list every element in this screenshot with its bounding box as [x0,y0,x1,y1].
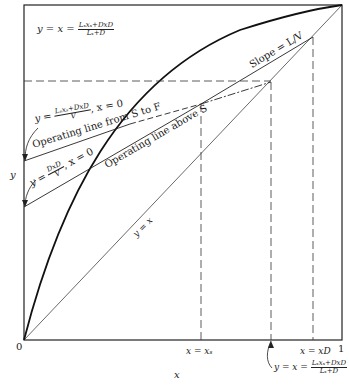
denominator: Lₛ+D [87,30,105,37]
origin-label: 0 [16,342,22,352]
fraction: Lₛxₛ+DxDLₛ+D [311,360,347,375]
fraction: Lₛxₛ+DxDLₛ+D [78,22,114,37]
eq-prefix: y = x = [37,23,75,34]
x-axis-label: x [174,370,180,380]
upper-operating-line [201,37,313,104]
bottom-equation: y = x = Lₛxₛ+DxDLₛ+D [274,360,347,375]
eq-prefix: y = [34,110,53,124]
xd-label: x = xD [300,347,331,356]
denominator: Lₛ+D [320,368,338,375]
top-left-equation: y = x = Lₛxₛ+DxDLₛ+D [37,22,114,37]
x-max-label: 1 [338,344,344,354]
arrow-head-3 [268,341,274,348]
diagram-canvas [0,0,349,386]
xs-label: x = xₛ [186,347,212,356]
operating-line-s-to-f-extension [201,82,271,104]
diagonal-line [24,5,342,340]
eq-prefix: y = x = [274,362,308,372]
arrow-head-2 [22,200,28,207]
y-axis-label: y [10,170,16,180]
denominator: V [70,113,76,121]
